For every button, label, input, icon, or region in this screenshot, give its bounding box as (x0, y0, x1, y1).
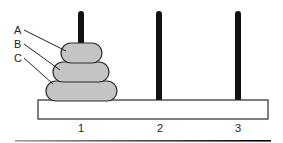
disk-label-b: B (14, 38, 21, 50)
bottom-rule (15, 140, 271, 142)
base-board (38, 100, 268, 119)
disk-b (53, 62, 109, 82)
leader-line-a (24, 30, 66, 51)
leader-line-b (24, 44, 60, 70)
disks (46, 43, 117, 101)
peg-2 (156, 11, 162, 103)
disk-label-c: C (14, 52, 22, 64)
disk-a (61, 43, 102, 63)
peg-label-3: 3 (235, 122, 241, 134)
disk-c (46, 81, 117, 101)
peg-label-1: 1 (78, 122, 84, 134)
tower-of-hanoi-diagram: A B C 1 2 3 (0, 0, 283, 143)
disk-label-a: A (14, 24, 22, 36)
peg-label-2: 2 (157, 122, 163, 134)
peg-3 (235, 11, 241, 103)
